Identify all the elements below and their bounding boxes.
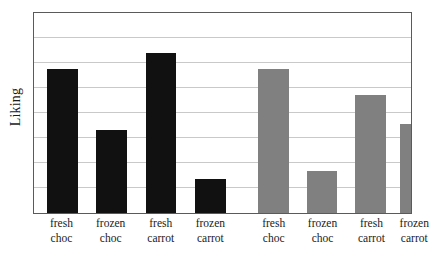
- x-tick-label-line-1: fresh: [149, 217, 172, 229]
- bar: [47, 69, 78, 213]
- x-tick-label-line-1: fresh: [262, 217, 285, 229]
- y-axis-title-text: Liking: [9, 88, 25, 127]
- x-tick-label-line-1: frozen: [96, 217, 125, 229]
- bar: [307, 171, 338, 213]
- x-tick-label-line-1: fresh: [50, 217, 73, 229]
- bar: [96, 130, 127, 213]
- x-tick-label-line-1: fresh: [360, 217, 383, 229]
- plot-area: [33, 12, 412, 214]
- bars-layer: [34, 13, 411, 213]
- x-tick-label: frozencarrot: [178, 216, 242, 245]
- bar: [355, 95, 386, 213]
- bar: [146, 53, 177, 214]
- bar: [400, 124, 412, 213]
- x-tick-label-line-2: carrot: [178, 231, 242, 246]
- bar: [195, 179, 226, 213]
- y-axis-title: Liking: [0, 0, 33, 214]
- bar: [258, 69, 289, 213]
- x-tick-label: frozencarrot: [382, 216, 434, 245]
- x-axis-labels: freshchocfrozenchocfreshcarrotfrozencarr…: [33, 216, 412, 254]
- x-tick-label-line-1: frozen: [196, 217, 225, 229]
- x-tick-label-line-1: frozen: [308, 217, 337, 229]
- x-tick-label-line-1: frozen: [400, 217, 429, 229]
- x-tick-label-line-2: carrot: [382, 231, 434, 246]
